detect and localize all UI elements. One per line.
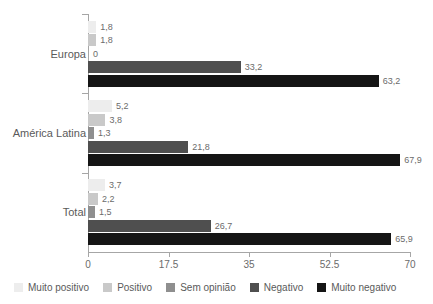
bar — [88, 154, 400, 166]
legend-item-label: Negativo — [264, 282, 303, 293]
bar-value-label: 21,8 — [192, 142, 210, 152]
bar — [88, 193, 98, 205]
category-axis-tick — [82, 93, 88, 94]
legend-item-label: Sem opinião — [180, 282, 236, 293]
legend-item-label: Positivo — [117, 282, 152, 293]
bar-value-label: 1,5 — [99, 207, 112, 217]
x-axis-tick-label: 52.5 — [320, 259, 339, 270]
bar — [88, 21, 96, 33]
bar-value-label: 1,8 — [100, 35, 113, 45]
bar — [88, 34, 96, 46]
legend-swatch-icon — [166, 283, 175, 292]
x-axis-tick — [330, 253, 331, 257]
legend-item-label: Muito positivo — [28, 282, 89, 293]
x-axis-tick — [88, 253, 89, 257]
x-axis-tick-label: 70 — [404, 259, 415, 270]
bar-value-label: 1,8 — [100, 22, 113, 32]
x-axis-tick — [410, 253, 411, 257]
bar-value-label: 26,7 — [215, 221, 233, 231]
legend-item-label: Muito negativo — [331, 282, 396, 293]
bar-value-label: 63,2 — [383, 76, 401, 86]
bar-value-label: 2,2 — [102, 194, 115, 204]
bar-value-label: 3,8 — [109, 115, 122, 125]
legend-swatch-icon — [14, 283, 23, 292]
bar — [88, 61, 241, 73]
legend-swatch-icon — [250, 283, 259, 292]
bar — [88, 100, 112, 112]
legend-swatch-icon — [103, 283, 112, 292]
x-axis-tick-label: 17.5 — [159, 259, 178, 270]
x-axis-tick — [169, 253, 170, 257]
legend-item[interactable]: Muito negativo — [317, 282, 396, 293]
legend-item[interactable]: Positivo — [103, 282, 152, 293]
bar — [88, 233, 391, 245]
bar-value-label: 0 — [93, 49, 98, 59]
bar — [88, 220, 211, 232]
bar — [88, 179, 105, 191]
bar-value-label: 1,3 — [98, 128, 111, 138]
legend-item[interactable]: Sem opinião — [166, 282, 236, 293]
legend-item[interactable]: Negativo — [250, 282, 303, 293]
category-label-1: Europa — [51, 48, 86, 60]
plot-area — [88, 14, 410, 252]
bar — [88, 141, 188, 153]
bar — [88, 114, 105, 126]
bar-value-label: 33,2 — [245, 62, 263, 72]
bar — [88, 127, 94, 139]
legend-swatch-icon — [317, 283, 326, 292]
bar-value-label: 5,2 — [116, 101, 129, 111]
category-axis-tick — [82, 14, 88, 15]
x-axis-tick-label: 0 — [85, 259, 91, 270]
category-label-2: América Latina — [13, 127, 86, 139]
category-axis-tick — [82, 173, 88, 174]
bar-value-label: 3,7 — [109, 180, 122, 190]
category-label-3: Total — [63, 206, 86, 218]
legend-item[interactable]: Muito positivo — [14, 282, 89, 293]
bar — [88, 75, 379, 87]
x-axis-tick — [249, 253, 250, 257]
horizontal-bar-chart: 017.53552.570 1,81,8033,263,25,23,81,321… — [0, 0, 433, 304]
bar-value-label: 65,9 — [395, 234, 413, 244]
x-axis-tick-label: 35 — [243, 259, 254, 270]
bar-value-label: 67,9 — [404, 155, 422, 165]
chart-legend: Muito positivoPositivoSem opiniãoNegativ… — [14, 282, 396, 293]
bar — [88, 206, 95, 218]
